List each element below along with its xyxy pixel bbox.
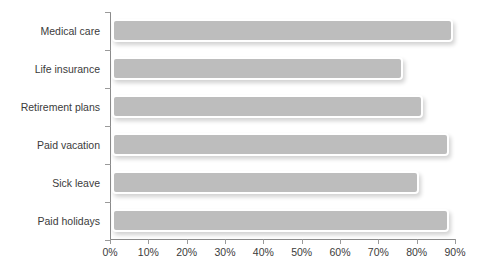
bar-track bbox=[110, 126, 479, 164]
category-label: Paid holidays bbox=[0, 202, 100, 240]
x-axis-tick-label: 30% bbox=[205, 246, 245, 258]
category-label: Retirement plans bbox=[0, 88, 100, 126]
bar-row: Medical care bbox=[0, 12, 479, 50]
bar bbox=[112, 171, 419, 194]
x-axis-tick-label: 80% bbox=[397, 246, 437, 258]
x-axis-tick-label: 40% bbox=[243, 246, 283, 258]
bar-track bbox=[110, 12, 479, 50]
x-axis-tick-label: 50% bbox=[282, 246, 322, 258]
x-axis-tick-label: 70% bbox=[358, 246, 398, 258]
category-label: Sick leave bbox=[0, 164, 100, 202]
x-axis-tick-labels: 0%10%20%30%40%50%60%70%80%90% bbox=[0, 246, 479, 262]
x-axis-tick-label: 60% bbox=[320, 246, 360, 258]
bar bbox=[112, 133, 449, 156]
bar bbox=[112, 209, 449, 232]
x-axis-tick-label: 0% bbox=[90, 246, 130, 258]
category-label: Paid vacation bbox=[0, 126, 100, 164]
bar-track bbox=[110, 50, 479, 88]
bar bbox=[112, 95, 423, 118]
x-axis-tick-label: 90% bbox=[435, 246, 475, 258]
bar-row: Life insurance bbox=[0, 50, 479, 88]
bar-track bbox=[110, 164, 479, 202]
category-label: Medical care bbox=[0, 12, 100, 50]
bar-chart-figure: Medical careLife insuranceRetirement pla… bbox=[0, 0, 479, 271]
x-axis-tick-label: 10% bbox=[128, 246, 168, 258]
bar-track bbox=[110, 202, 479, 240]
bar-row: Sick leave bbox=[0, 164, 479, 202]
bar bbox=[112, 57, 403, 80]
bar-row: Retirement plans bbox=[0, 88, 479, 126]
bar bbox=[112, 19, 453, 42]
bar-row: Paid holidays bbox=[0, 202, 479, 240]
bar-track bbox=[110, 88, 479, 126]
bar-row: Paid vacation bbox=[0, 126, 479, 164]
x-axis-tick-label: 20% bbox=[167, 246, 207, 258]
category-label: Life insurance bbox=[0, 50, 100, 88]
